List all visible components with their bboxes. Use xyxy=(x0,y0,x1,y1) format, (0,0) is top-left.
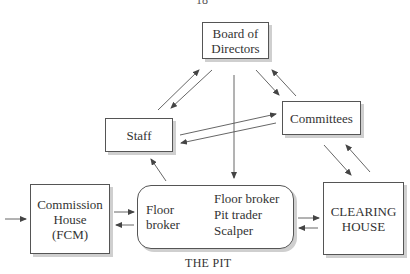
arrow-committees-to-clearing xyxy=(324,145,351,175)
pit-target-floor-broker: Floor broker xyxy=(214,191,279,207)
node-label: Staff xyxy=(126,128,151,143)
node-staff: Staff xyxy=(105,118,173,152)
node-label-line: (FCM) xyxy=(37,227,103,242)
pit-source-line: broker xyxy=(146,217,180,232)
pit-target-pit-trader: Pit trader xyxy=(214,207,279,223)
arrow-board-to-staff xyxy=(171,70,212,108)
node-label-line: Commission xyxy=(37,197,103,212)
node-label: Committees xyxy=(290,111,353,126)
arrow-committees-to-staff xyxy=(181,123,276,143)
node-label-line: Board of xyxy=(211,26,259,41)
pit-caption: THE PIT xyxy=(185,256,231,271)
pit-targets: Floor broker Pit trader Scalper xyxy=(214,191,279,239)
node-clearing-house: CLEARING HOUSE xyxy=(323,182,404,255)
arrow-staff-to-board xyxy=(158,70,199,110)
pit-source-line: Floor xyxy=(146,202,180,217)
node-label-line: HOUSE xyxy=(331,219,397,234)
node-the-pit: Floor broker Floor broker Pit trader Sca… xyxy=(137,185,294,249)
arrow-clearing-to-committees xyxy=(346,145,370,172)
arrow-pit-to-staff xyxy=(151,159,166,181)
node-board-of-directors: Board of Directors xyxy=(202,22,269,59)
node-label-line: House xyxy=(37,212,103,227)
node-commission-house: Commission House (FCM) xyxy=(30,184,110,254)
node-committees: Committees xyxy=(282,101,361,135)
node-label-line: Directors xyxy=(211,41,259,56)
arrow-committees-to-board xyxy=(272,70,296,96)
pit-floor-broker-source: Floor broker xyxy=(146,202,180,232)
pit-target-scalper: Scalper xyxy=(214,223,279,239)
arrow-staff-to-committees xyxy=(180,114,276,135)
node-label-line: CLEARING xyxy=(331,204,397,219)
